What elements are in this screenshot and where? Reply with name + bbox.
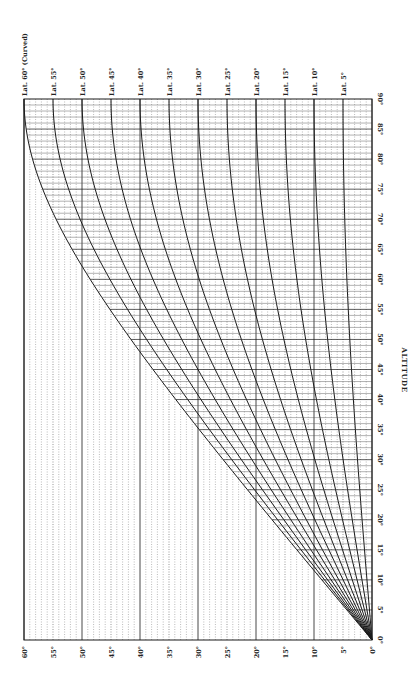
altitude-tick: 90° [376,93,384,105]
lat-label: Lat. 35° [166,67,174,96]
value-tick: 0° [369,646,377,654]
lat-label: Lat. 5° [340,72,348,96]
lat-label: Lat. 10° [311,67,319,96]
value-tick: 30° [195,646,203,658]
lat-label: Lat. 15° [282,67,290,96]
value-tick: 5° [340,646,348,654]
altitude-tick: 85° [376,123,384,135]
altitude-tick: 55° [376,303,384,315]
value-tick: 25° [224,646,232,658]
altitude-tick: 45° [376,363,384,375]
altitude-tick: 20° [376,514,384,526]
lat-label: Lat. 30° [195,67,203,96]
altitude-tick: 25° [376,484,384,496]
altitude-tick: 30° [376,454,384,466]
lat-label: Lat. 45° [108,67,116,96]
value-tick: 20° [253,646,261,658]
value-tick: 45° [108,646,116,658]
altitude-tick: 75° [376,183,384,195]
latitude-altitude-chart: Lat. 60° (Curved)Lat. 55°Lat. 50°Lat. 45… [0,0,416,688]
altitude-tick: 50° [376,333,384,345]
value-tick: 10° [311,646,319,658]
altitude-tick: 80° [376,153,384,165]
value-tick: 15° [282,646,290,658]
altitude-tick-labels: 0°5°10°15°20°25°30°35°40°45°50°55°60°65°… [376,93,384,644]
lat-label: Lat. 60° (Curved) [21,33,29,96]
altitude-tick: 15° [376,544,384,556]
lat-label: Lat. 20° [253,67,261,96]
value-tick-labels: 0°5°10°15°20°25°30°35°40°45°50°55°60° [21,646,377,658]
lat-label: Lat. 50° [79,67,87,96]
altitude-tick: 0° [376,636,384,644]
altitude-tick: 5° [376,606,384,614]
value-tick: 55° [50,646,58,658]
lat-label: Lat. 25° [224,67,232,96]
value-tick: 35° [166,646,174,658]
altitude-tick: 35° [376,423,384,435]
value-tick: 60° [21,646,29,658]
value-tick: 50° [79,646,87,658]
lat-label: Lat. 55° [50,67,58,96]
latitude-labels: Lat. 60° (Curved)Lat. 55°Lat. 50°Lat. 45… [21,33,348,96]
altitude-tick: 70° [376,213,384,225]
altitude-tick: 10° [376,574,384,586]
altitude-tick: 65° [376,243,384,255]
altitude-tick: 40° [376,393,384,405]
axis-title-altitude: ALTITUDE [400,347,409,393]
altitude-tick: 60° [376,273,384,285]
value-tick: 40° [137,646,145,658]
lat-label: Lat. 40° [137,67,145,96]
